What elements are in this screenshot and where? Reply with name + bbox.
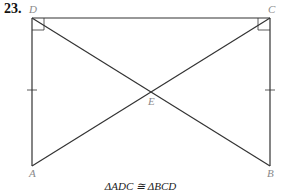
label-E: E xyxy=(148,95,155,107)
label-C: C xyxy=(268,3,275,15)
label-A: A xyxy=(29,167,36,179)
congruence-caption: ΔADC ≅ ΔBCD xyxy=(0,180,281,193)
rectangle-diagram xyxy=(0,0,281,195)
label-B: B xyxy=(267,167,274,179)
label-D: D xyxy=(29,3,37,15)
